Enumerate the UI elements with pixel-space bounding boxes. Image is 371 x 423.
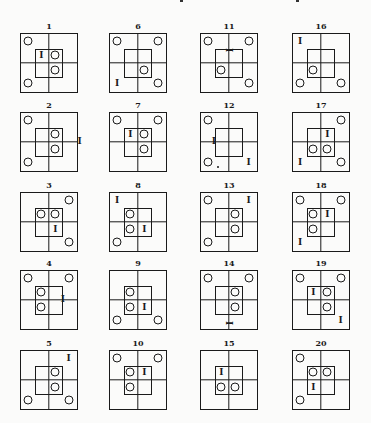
circle-marker bbox=[336, 79, 345, 88]
outer-square: I bbox=[109, 350, 167, 410]
bar-marker: I bbox=[142, 368, 146, 377]
bar-marker: I bbox=[142, 302, 146, 311]
outer-square: II bbox=[292, 112, 350, 172]
bar-marker: I bbox=[247, 158, 251, 167]
outer-square: I bbox=[109, 112, 167, 172]
circle-marker bbox=[51, 51, 60, 60]
bar-marker: I bbox=[115, 79, 119, 88]
figure-12: 12II bbox=[200, 100, 262, 180]
circle-marker bbox=[231, 224, 240, 233]
figure-8: 8II bbox=[109, 180, 171, 260]
circle-marker bbox=[51, 368, 60, 377]
bar-marker: I bbox=[212, 137, 216, 146]
figure-20: 20I bbox=[292, 338, 354, 418]
figure-number-label: 9 bbox=[109, 258, 167, 268]
figure-number-label: 7 bbox=[109, 100, 167, 110]
bar-marker: I bbox=[61, 295, 65, 304]
circle-marker bbox=[126, 224, 135, 233]
figure-4: 4I bbox=[20, 258, 82, 338]
circle-marker bbox=[296, 196, 305, 205]
circle-marker bbox=[204, 274, 213, 283]
circle-marker bbox=[153, 116, 162, 125]
circle-marker bbox=[126, 382, 135, 391]
figure-number-label: 3 bbox=[20, 180, 78, 190]
circle-marker bbox=[140, 130, 149, 139]
figure-number-label: 20 bbox=[292, 338, 350, 348]
circle-marker bbox=[51, 382, 60, 391]
circle-marker bbox=[336, 196, 345, 205]
bar-marker: I bbox=[224, 48, 233, 52]
figure-number-label: 6 bbox=[109, 21, 167, 31]
bar-marker: I bbox=[115, 196, 119, 205]
outer-square: I bbox=[109, 33, 167, 93]
outer-square: I bbox=[20, 112, 78, 172]
circle-marker bbox=[113, 238, 122, 247]
bar-marker: I bbox=[311, 382, 315, 391]
outer-square: II bbox=[200, 112, 258, 172]
bar-marker: I bbox=[142, 224, 146, 233]
circle-marker bbox=[231, 288, 240, 297]
bar-marker: I bbox=[247, 196, 251, 205]
figure-19: 19II bbox=[292, 258, 354, 338]
circle-marker bbox=[113, 116, 122, 125]
circle-marker bbox=[24, 158, 33, 167]
circle-marker bbox=[64, 274, 73, 283]
top-crop-speck bbox=[180, 0, 183, 2]
bar-marker: I bbox=[311, 288, 315, 297]
figure-number-label: 13 bbox=[200, 180, 258, 190]
circle-marker bbox=[24, 396, 33, 405]
inner-square bbox=[124, 49, 152, 78]
figure-number-label: 14 bbox=[200, 258, 258, 268]
circle-marker bbox=[296, 396, 305, 405]
figure-number-label: 19 bbox=[292, 258, 350, 268]
bar-marker: I bbox=[298, 158, 302, 167]
figure-number-label: 10 bbox=[109, 338, 167, 348]
circle-marker bbox=[336, 116, 345, 125]
bar-marker: I bbox=[78, 137, 82, 146]
figure-number-label: 2 bbox=[20, 100, 78, 110]
circle-marker bbox=[323, 144, 332, 153]
circle-marker bbox=[309, 224, 318, 233]
figure-number-label: 18 bbox=[292, 180, 350, 190]
circle-marker bbox=[309, 368, 318, 377]
outer-square: I bbox=[20, 350, 78, 410]
outer-square: I bbox=[292, 33, 350, 93]
figure-number-label: 12 bbox=[200, 100, 258, 110]
outer-square: I bbox=[292, 350, 350, 410]
circle-marker bbox=[204, 238, 213, 247]
circle-marker bbox=[51, 144, 60, 153]
circle-marker bbox=[126, 368, 135, 377]
circle-marker bbox=[244, 37, 253, 46]
figure-number-label: 17 bbox=[292, 100, 350, 110]
figure-5: 5I bbox=[20, 338, 82, 418]
figure-number-label: 11 bbox=[200, 21, 258, 31]
circle-marker bbox=[126, 210, 135, 219]
figure-14: 14I bbox=[200, 258, 262, 338]
figure-16: 16I bbox=[292, 21, 354, 101]
outer-square: II bbox=[292, 192, 350, 252]
circle-marker bbox=[37, 288, 46, 297]
circle-marker bbox=[113, 37, 122, 46]
figure-17: 17II bbox=[292, 100, 354, 180]
circle-marker bbox=[204, 196, 213, 205]
figure-number-label: 4 bbox=[20, 258, 78, 268]
bar-marker: I bbox=[219, 368, 223, 377]
outer-square: I bbox=[109, 270, 167, 330]
circle-marker bbox=[51, 130, 60, 139]
circle-marker bbox=[113, 316, 122, 325]
bar-marker: I bbox=[128, 130, 132, 139]
bar-marker: I bbox=[339, 316, 343, 325]
circle-marker bbox=[309, 210, 318, 219]
bar-marker: I bbox=[298, 238, 302, 247]
figure-number-label: 16 bbox=[292, 21, 350, 31]
figure-13: 13I bbox=[200, 180, 262, 260]
outer-square: I bbox=[20, 33, 78, 93]
dot-marker bbox=[217, 166, 219, 168]
circle-marker bbox=[296, 354, 305, 363]
circle-marker bbox=[323, 368, 332, 377]
circle-marker bbox=[24, 37, 33, 46]
circle-marker bbox=[24, 116, 33, 125]
circle-marker bbox=[64, 238, 73, 247]
figure-15: 15I bbox=[200, 338, 262, 418]
circle-marker bbox=[204, 116, 213, 125]
